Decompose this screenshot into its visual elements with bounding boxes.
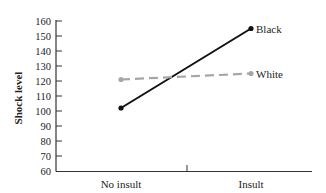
y-tick-label: 110 [36,91,51,102]
x-category-label: No insult [101,178,142,190]
series-label: White [256,68,283,80]
series-label: Black [256,23,282,35]
y-axis: 60708090100110120130140150160 [35,16,62,177]
series-lines: BlackWhite [118,23,283,111]
y-tick-label: 130 [35,61,51,72]
y-tick-label: 140 [35,46,51,57]
data-point [248,26,253,31]
data-point [118,105,123,110]
y-tick-label: 70 [41,151,52,162]
y-tick-label: 120 [35,76,51,87]
data-point [248,71,253,76]
x-axis: No insultInsult [56,165,312,190]
y-tick-label: 150 [35,31,51,42]
y-axis-title: Shock level [12,72,24,125]
y-tick-label: 90 [41,121,52,132]
y-tick-label: 160 [35,16,51,27]
y-tick-label: 60 [41,166,52,177]
line-chart: 60708090100110120130140150160 No insultI… [0,0,326,193]
data-point [118,77,123,82]
x-category-label: Insult [238,178,263,190]
series-white: White [118,68,283,83]
y-tick-label: 100 [35,106,51,117]
y-tick-label: 80 [41,136,52,147]
